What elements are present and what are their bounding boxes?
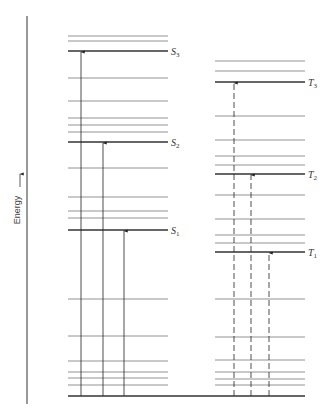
- singlet-manifold: S3S2S1: [68, 36, 180, 396]
- singlet-level-label: S3: [171, 46, 180, 59]
- svg-text:Energy: Energy: [12, 195, 22, 224]
- triplet-manifold: T3T2T1: [215, 61, 318, 396]
- triplet-level-label: T3: [308, 77, 318, 90]
- energy-level-diagram: Energy S3S2S1 T3T2T1: [0, 0, 332, 416]
- energy-axis-label: Energy: [12, 195, 22, 224]
- triplet-level-label: T2: [308, 169, 318, 182]
- triplet-level-label: T1: [308, 247, 318, 260]
- singlet-level-label: S1: [171, 225, 180, 238]
- singlet-level-label: S2: [171, 137, 180, 150]
- energy-axis: Energy: [12, 16, 27, 404]
